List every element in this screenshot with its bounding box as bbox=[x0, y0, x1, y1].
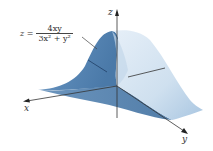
equation-fraction: 4xy 3x² + y² bbox=[36, 24, 72, 43]
equation-lhs: z = bbox=[20, 29, 33, 38]
formula-leader-line bbox=[82, 37, 97, 49]
z-axis-label: z bbox=[108, 8, 113, 17]
surface-equation: z = 4xy 3x² + y² bbox=[20, 24, 73, 43]
equation-numerator: 4xy bbox=[46, 24, 64, 33]
surface-plot bbox=[0, 0, 213, 151]
z-axis-arrow-icon bbox=[115, 9, 119, 16]
equation-denominator: 3x² + y² bbox=[36, 33, 72, 43]
y-axis-label: y bbox=[182, 135, 187, 144]
x-axis-label: x bbox=[24, 104, 29, 113]
x-axis-arrow-icon bbox=[23, 99, 30, 103]
